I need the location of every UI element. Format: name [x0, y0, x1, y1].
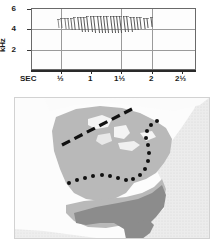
song-note	[57, 19, 59, 28]
song-note-hook	[126, 16, 129, 17]
song-note	[146, 18, 149, 28]
x-tick-label-2_5: 2½	[175, 74, 186, 83]
song-note-hook	[60, 18, 63, 19]
x-tick-label-1: 1	[88, 74, 92, 83]
song-note-hook	[99, 16, 102, 17]
song-note-hook	[73, 17, 76, 18]
song-note	[130, 17, 133, 32]
song-note	[86, 16, 89, 32]
song-note-hook	[66, 18, 69, 19]
song-note-hook	[119, 16, 122, 17]
song-note	[143, 18, 146, 29]
song-trace	[31, 8, 196, 70]
y-axis-unit-label: kHz	[0, 38, 7, 52]
x-axis-name-label: SEC	[20, 74, 36, 83]
song-note	[133, 17, 136, 30]
song-note	[73, 17, 76, 30]
x-axis-line	[31, 70, 196, 72]
song-note	[126, 16, 129, 32]
song-note	[106, 16, 109, 33]
song-note-hook	[150, 17, 153, 18]
y-tick-label-6: 6	[4, 5, 16, 13]
song-note-hook	[86, 16, 89, 17]
song-note-hook	[93, 16, 96, 17]
song-note-hook	[139, 17, 142, 18]
x-tick-label-1_5: 1½	[114, 74, 125, 83]
x-tick-label-0_5: ½	[57, 74, 64, 83]
song-note	[64, 18, 67, 29]
map-frame-border	[14, 97, 210, 239]
song-note	[60, 18, 63, 28]
song-note-hook	[80, 17, 83, 18]
figure-panel: 6 4 2 kHz SEC ½ 1 1½ 2 2½	[0, 0, 214, 241]
song-note	[93, 16, 96, 33]
range-map-panel	[14, 97, 210, 239]
y-tick-label-4: 4	[4, 25, 16, 33]
song-note-hook	[146, 18, 149, 19]
song-note	[67, 18, 70, 29]
song-note-hook	[106, 16, 109, 17]
x-tick-label-2: 2	[149, 74, 153, 83]
song-note	[150, 17, 153, 27]
song-note	[119, 16, 122, 33]
song-note-hook	[132, 17, 135, 18]
spectrogram-panel: 6 4 2 kHz SEC ½ 1 1½ 2 2½	[0, 0, 214, 92]
